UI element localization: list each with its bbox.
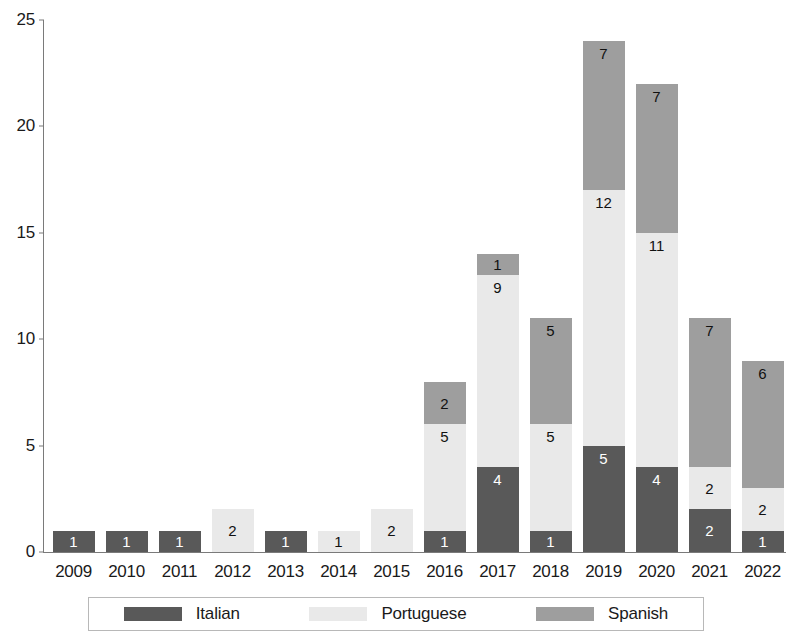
x-axis-tick-label: 2021 (683, 562, 736, 582)
bar-segment[interactable]: 5 (530, 318, 572, 424)
bar-group[interactable]: 155 (530, 318, 572, 552)
bar-segment-value: 2 (758, 502, 766, 517)
bar-group[interactable]: 2 (212, 509, 254, 552)
bar-segment[interactable]: 4 (636, 467, 678, 552)
bar-segment[interactable]: 2 (689, 509, 731, 552)
bar-segment[interactable]: 2 (371, 509, 413, 552)
bar-segment[interactable]: 6 (742, 361, 784, 489)
bar-segment[interactable]: 11 (636, 233, 678, 467)
bar-group[interactable]: 1 (159, 531, 201, 552)
bar-segment[interactable]: 1 (265, 531, 307, 552)
legend-label: Spanish (608, 604, 668, 624)
bar-group[interactable]: 126 (742, 361, 784, 552)
bar-segment-value: 6 (758, 366, 766, 381)
bar-segment-value: 5 (546, 429, 554, 444)
bar-segment-value: 5 (546, 323, 554, 338)
x-axis-tick-label: 2017 (471, 562, 524, 582)
bar-segment[interactable]: 2 (424, 382, 466, 425)
bar-segment[interactable]: 7 (689, 318, 731, 467)
bar-segment-value: 1 (69, 534, 77, 549)
legend-swatch (124, 607, 182, 621)
bar-segment-value: 4 (493, 472, 501, 487)
bar-group[interactable]: 1 (106, 531, 148, 552)
bar-segment-value: 2 (705, 481, 713, 496)
bar-segment-value: 1 (758, 534, 766, 549)
legend-label: Portuguese (381, 604, 466, 624)
x-axis-tick-label: 2016 (418, 562, 471, 582)
bar-group[interactable]: 491 (477, 254, 519, 552)
bar-segment[interactable]: 1 (530, 531, 572, 552)
bar-segment-value: 4 (652, 472, 660, 487)
legend-swatch (536, 607, 594, 621)
bar-segment[interactable]: 1 (106, 531, 148, 552)
bar-group[interactable]: 1 (265, 531, 307, 552)
bar-group[interactable]: 152 (424, 382, 466, 552)
x-axis-labels: 2009201020112012201320142015201620172018… (44, 556, 786, 586)
bar-segment[interactable]: 2 (212, 509, 254, 552)
bar-segment[interactable]: 5 (583, 446, 625, 552)
bar-segment[interactable]: 2 (742, 488, 784, 531)
bar-segment-value: 7 (652, 89, 660, 104)
bar-segment-value: 2 (440, 396, 448, 411)
bar-segment-value: 1 (334, 534, 342, 549)
bar-segment-value: 1 (122, 534, 130, 549)
bar-segment-value: 7 (705, 323, 713, 338)
bar-segment[interactable]: 1 (424, 531, 466, 552)
bar-segment[interactable]: 2 (689, 467, 731, 510)
plot-area: 0510152025 11121121524911555127411722712… (44, 20, 786, 552)
bar-segment-value: 1 (546, 534, 554, 549)
bar-segment[interactable]: 4 (477, 467, 519, 552)
bar-segment-value: 2 (387, 523, 395, 538)
bar-segment[interactable]: 9 (477, 275, 519, 467)
x-axis-tick-label: 2020 (630, 562, 683, 582)
x-axis-tick-label: 2014 (312, 562, 365, 582)
legend-swatch (309, 607, 367, 621)
x-axis-tick-label: 2013 (259, 562, 312, 582)
bar-segment[interactable]: 1 (53, 531, 95, 552)
legend-item[interactable]: Italian (124, 604, 240, 624)
bar-segment-value: 5 (440, 429, 448, 444)
x-axis-tick-label: 2022 (736, 562, 789, 582)
bar-segment[interactable]: 1 (742, 531, 784, 552)
x-axis-tick-label: 2009 (47, 562, 100, 582)
bar-segment-value: 9 (493, 280, 501, 295)
stacked-bar-chart: 0510152025 11121121524911555127411722712… (0, 0, 790, 636)
legend-item[interactable]: Portuguese (309, 604, 466, 624)
bar-segment[interactable]: 7 (636, 84, 678, 233)
bar-group[interactable]: 5127 (583, 41, 625, 552)
x-axis-tick-label: 2018 (524, 562, 577, 582)
bar-segment-value: 1 (281, 534, 289, 549)
bar-group[interactable]: 227 (689, 318, 731, 552)
bar-segment[interactable]: 5 (424, 424, 466, 530)
bar-segment-value: 1 (175, 534, 183, 549)
bar-segment-value: 1 (440, 534, 448, 549)
bar-segment[interactable]: 12 (583, 190, 625, 445)
bars-container: 111211215249115551274117227126 (44, 20, 786, 552)
bar-segment-value: 1 (493, 257, 501, 272)
x-axis-tick-label: 2011 (153, 562, 206, 582)
bar-segment[interactable]: 1 (159, 531, 201, 552)
bar-segment[interactable]: 1 (318, 531, 360, 552)
legend-label: Italian (196, 604, 240, 624)
bar-group[interactable]: 1 (318, 531, 360, 552)
bar-group[interactable]: 1 (53, 531, 95, 552)
x-axis-tick-label: 2010 (100, 562, 153, 582)
bar-group[interactable]: 2 (371, 509, 413, 552)
x-axis-tick-label: 2015 (365, 562, 418, 582)
bar-segment[interactable]: 1 (477, 254, 519, 275)
bar-segment-value: 2 (705, 523, 713, 538)
bar-segment-value: 11 (649, 238, 665, 253)
bar-segment[interactable]: 7 (583, 41, 625, 190)
bar-segment-value: 12 (595, 195, 612, 210)
bar-segment-value: 7 (599, 46, 607, 61)
x-axis-tick-label: 2019 (577, 562, 630, 582)
x-axis-tick-label: 2012 (206, 562, 259, 582)
x-axis-line (43, 552, 786, 553)
bar-segment-value: 5 (599, 451, 607, 466)
bar-segment-value: 2 (228, 523, 236, 538)
bar-group[interactable]: 4117 (636, 84, 678, 552)
legend-item[interactable]: Spanish (536, 604, 668, 624)
chart-legend: ItalianPortugueseSpanish (88, 597, 704, 631)
bar-segment[interactable]: 5 (530, 424, 572, 530)
